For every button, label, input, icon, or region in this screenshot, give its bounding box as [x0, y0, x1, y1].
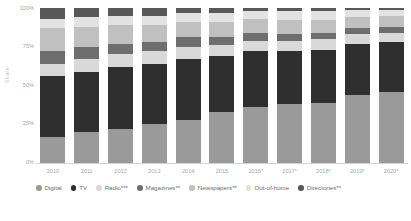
bar-slot — [137, 8, 171, 163]
bar-segment[interactable] — [176, 22, 201, 38]
bar-segment[interactable] — [277, 41, 302, 52]
bar-slot — [340, 8, 374, 163]
legend-item[interactable]: Newspapers** — [189, 184, 237, 192]
bar-segment[interactable] — [40, 64, 65, 76]
bar-segment[interactable] — [379, 33, 404, 42]
stacked-bar[interactable] — [40, 8, 65, 163]
y-tick-100: 100% — [10, 5, 34, 11]
bar-segment[interactable] — [40, 28, 65, 51]
legend-item-label: TV — [79, 184, 87, 192]
bar-segment[interactable] — [40, 51, 65, 63]
legend-item[interactable]: Digital — [36, 184, 62, 192]
y-tick-75: 75% — [10, 43, 34, 49]
x-tick-label: 2019* — [340, 166, 374, 178]
y-axis-ticks: 100% 75% 50% 25% 0% — [0, 0, 34, 176]
legend-item-label: Directories** — [307, 184, 341, 192]
bar-segment[interactable] — [345, 17, 370, 28]
bar-segment[interactable] — [142, 16, 167, 25]
stacked-bar[interactable] — [176, 8, 201, 163]
stacked-bar[interactable] — [311, 8, 336, 163]
bar-segment[interactable] — [108, 8, 133, 16]
stacked-bar[interactable] — [108, 8, 133, 163]
stacked-bar[interactable] — [379, 8, 404, 163]
bar-segment[interactable] — [108, 25, 133, 44]
y-tick-0: 0% — [10, 159, 34, 165]
bar-segment[interactable] — [379, 16, 404, 27]
x-tick-label: 2014 — [171, 166, 205, 178]
plot-area: Share 100% 75% 50% 25% 0% 20102011201220… — [0, 0, 411, 176]
stacked-bar[interactable] — [243, 8, 268, 163]
stacked-bar[interactable] — [142, 8, 167, 163]
legend-swatch-icon — [246, 185, 252, 191]
bar-segment[interactable] — [142, 8, 167, 16]
bar-segment[interactable] — [74, 72, 99, 132]
x-tick-label: 2020* — [374, 166, 408, 178]
legend-item[interactable]: Directories** — [298, 184, 341, 192]
bar-segment[interactable] — [277, 104, 302, 163]
bar-segment[interactable] — [243, 11, 268, 19]
bar-segment[interactable] — [345, 34, 370, 43]
bar-segment[interactable] — [379, 92, 404, 163]
bar-segment[interactable] — [209, 112, 234, 163]
bar-segment[interactable] — [40, 76, 65, 136]
bar-segment[interactable] — [243, 51, 268, 107]
bar-segment[interactable] — [345, 10, 370, 18]
legend-item[interactable]: Magazines** — [137, 184, 180, 192]
bar-segment[interactable] — [176, 120, 201, 163]
bar-segment[interactable] — [74, 59, 99, 71]
legend-item[interactable]: TV — [71, 184, 87, 192]
bar-segment[interactable] — [209, 13, 234, 22]
y-tick-50: 50% — [10, 82, 34, 88]
bar-segment[interactable] — [243, 33, 268, 41]
bar-segment[interactable] — [108, 16, 133, 25]
bar-segment[interactable] — [176, 37, 201, 46]
legend-swatch-icon — [189, 185, 195, 191]
bar-segment[interactable] — [40, 19, 65, 28]
stacked-bar[interactable] — [277, 8, 302, 163]
legend-item[interactable]: Out-of-home — [246, 184, 289, 192]
bar-segment[interactable] — [142, 25, 167, 42]
bar-segment[interactable] — [142, 42, 167, 51]
bar-segment[interactable] — [40, 137, 65, 163]
bar-segment[interactable] — [311, 20, 336, 32]
stacked-bar[interactable] — [345, 8, 370, 163]
bar-segment[interactable] — [209, 37, 234, 45]
bar-segment[interactable] — [142, 64, 167, 124]
bar-segment[interactable] — [311, 11, 336, 20]
bar-segment[interactable] — [379, 42, 404, 92]
bar-segment[interactable] — [74, 17, 99, 26]
bar-segment[interactable] — [176, 59, 201, 119]
bar-segment[interactable] — [108, 54, 133, 66]
bar-segment[interactable] — [108, 67, 133, 129]
bar-slot — [70, 8, 104, 163]
bar-segment[interactable] — [74, 8, 99, 17]
bar-segment[interactable] — [74, 47, 99, 59]
bar-segment[interactable] — [311, 50, 336, 103]
bar-segment[interactable] — [243, 19, 268, 33]
bar-segment[interactable] — [345, 95, 370, 163]
bar-segment[interactable] — [209, 22, 234, 38]
bar-segment[interactable] — [345, 44, 370, 95]
bar-segment[interactable] — [74, 27, 99, 47]
bar-segment[interactable] — [243, 41, 268, 52]
bar-segment[interactable] — [74, 132, 99, 163]
bar-segment[interactable] — [108, 44, 133, 55]
bar-segment[interactable] — [277, 20, 302, 34]
bar-segment[interactable] — [209, 45, 234, 56]
stacked-bar[interactable] — [209, 8, 234, 163]
bar-segment[interactable] — [40, 8, 65, 19]
legend-item[interactable]: Radio*** — [96, 184, 128, 192]
bar-segment[interactable] — [176, 47, 201, 59]
bar-segment[interactable] — [142, 124, 167, 163]
bar-segment[interactable] — [311, 103, 336, 163]
bar-segment[interactable] — [176, 13, 201, 22]
x-tick-label: 2012 — [104, 166, 138, 178]
bar-segment[interactable] — [209, 56, 234, 112]
bar-segment[interactable] — [243, 107, 268, 163]
stacked-bar[interactable] — [74, 8, 99, 163]
bar-segment[interactable] — [142, 51, 167, 63]
bar-segment[interactable] — [277, 51, 302, 104]
bar-segment[interactable] — [311, 39, 336, 50]
bar-segment[interactable] — [277, 11, 302, 20]
bar-segment[interactable] — [108, 129, 133, 163]
